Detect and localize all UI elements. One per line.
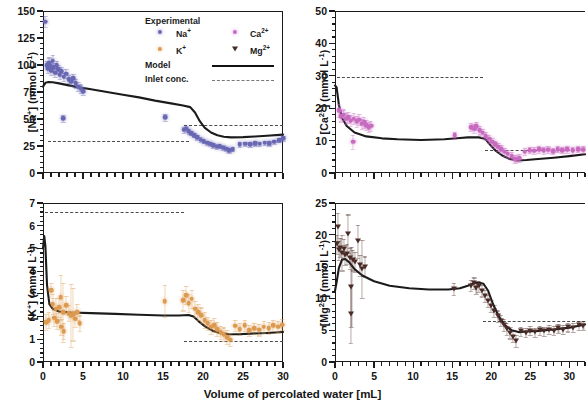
error-bar-cap: [581, 321, 586, 322]
error-bar-cap: [495, 310, 500, 311]
x-minor-tick: [483, 362, 484, 366]
legend-label: Mg2+: [250, 46, 270, 56]
x-minor-tick: [506, 362, 507, 366]
error-bar-cap: [452, 283, 457, 284]
error-bar-cap: [452, 295, 457, 296]
y-minor-tick: [332, 291, 336, 292]
error-bar-cap: [581, 330, 586, 331]
y-minor-tick: [332, 272, 336, 273]
legend-label: Ca2+: [250, 29, 268, 39]
legend-model-label: Model: [145, 60, 170, 70]
legend-label: Na+: [176, 29, 191, 39]
error-bar-cap: [344, 264, 349, 265]
error-bar-cap: [341, 239, 346, 240]
error-bar-cap: [362, 277, 367, 278]
x-minor-tick: [444, 362, 445, 366]
error-bar-cap: [472, 277, 477, 278]
error-bar-cap: [505, 323, 510, 324]
x-major-tick: [530, 362, 531, 368]
y-minor-tick: [332, 349, 336, 350]
y-tick-label: 25: [303, 197, 327, 209]
data-point: [348, 284, 354, 289]
error-bar-cap: [340, 270, 345, 271]
error-bar-cap: [360, 240, 365, 241]
error-bar-cap: [348, 343, 353, 344]
error-bar-cap: [502, 319, 507, 320]
x-minor-tick: [538, 362, 539, 366]
error-bar-cap: [492, 305, 497, 306]
x-tick-label: 15: [446, 370, 458, 382]
x-minor-tick: [358, 362, 359, 366]
x-minor-tick: [366, 362, 367, 366]
x-tick-label: 30: [564, 370, 576, 382]
x-major-tick: [452, 362, 453, 368]
x-minor-tick: [428, 362, 429, 366]
y-minor-tick: [332, 209, 336, 210]
x-minor-tick: [342, 362, 343, 366]
error-bar-cap: [362, 256, 367, 257]
data-point: [345, 231, 351, 236]
y-minor-tick: [332, 215, 336, 216]
error-bar-cap: [343, 265, 348, 266]
x-minor-tick: [381, 362, 382, 366]
error-bar-cap: [514, 347, 519, 348]
y-minor-tick: [332, 311, 336, 312]
y-minor-tick: [332, 317, 336, 318]
legend-title: Experimental: [145, 16, 200, 26]
error-bar-cap: [477, 281, 482, 282]
x-major-tick: [413, 362, 414, 368]
x-tick-label: 20: [485, 370, 497, 382]
x-major-tick: [569, 362, 570, 368]
y-minor-tick: [332, 247, 336, 248]
y-minor-tick: [332, 279, 336, 280]
error-bar-cap: [542, 336, 547, 337]
y-major-tick: [329, 202, 335, 203]
x-major-tick: [491, 362, 492, 368]
y-minor-tick: [332, 355, 336, 356]
plot-area-bottom-right: [335, 203, 585, 362]
x-major-tick: [334, 362, 335, 368]
error-bar-cap: [469, 291, 474, 292]
error-bar-cap: [511, 331, 516, 332]
y-minor-tick: [332, 304, 336, 305]
legend-label: K+: [176, 46, 186, 56]
data-point: [513, 339, 519, 344]
legend-marker-Ca²⁺: [233, 30, 237, 34]
error-bar-cap: [508, 327, 513, 328]
y-minor-tick: [332, 221, 336, 222]
error-bar-cap: [523, 337, 528, 338]
x-minor-tick: [584, 362, 585, 366]
x-minor-tick: [498, 362, 499, 366]
legend-marker-Mg²⁺: [232, 47, 238, 52]
error-bar-cap: [498, 315, 503, 316]
legend-inlet-label: Inlet conc.: [145, 74, 189, 84]
data-point: [451, 286, 457, 291]
error-bar-cap: [340, 235, 345, 236]
x-minor-tick: [436, 362, 437, 366]
error-bar-cap: [353, 272, 358, 273]
error-bar-cap: [486, 295, 491, 296]
x-tick-label: 5: [371, 370, 377, 382]
error-bar-cap: [355, 225, 360, 226]
x-major-tick: [373, 362, 374, 368]
x-minor-tick: [522, 362, 523, 366]
error-bar-cap: [566, 331, 571, 332]
x-minor-tick: [397, 362, 398, 366]
x-tick-label: 0: [332, 370, 338, 382]
legend-inlet-line: [212, 80, 274, 81]
error-bar-cap: [571, 332, 576, 333]
x-minor-tick: [389, 362, 390, 366]
x-tick-label: 10: [407, 370, 419, 382]
x-minor-tick: [405, 362, 406, 366]
data-point: [362, 264, 368, 269]
data-point: [580, 323, 586, 328]
legend-marker-Na⁺: [158, 30, 162, 34]
x-minor-tick: [577, 362, 578, 366]
legend-model-line: [212, 65, 274, 67]
x-minor-tick: [545, 362, 546, 366]
x-minor-tick: [475, 362, 476, 366]
x-minor-tick: [467, 362, 468, 366]
error-bar-cap: [483, 290, 488, 291]
